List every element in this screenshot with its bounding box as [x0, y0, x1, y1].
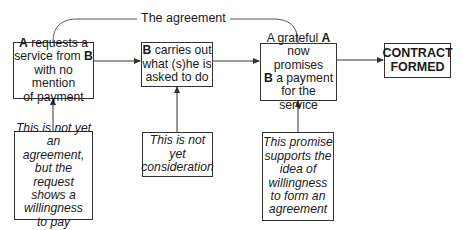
step-request-box: A requests a service from B with no ment… — [13, 42, 94, 99]
contract-formed-text: CONTRACT FORMED — [382, 47, 452, 74]
note-perform-box: This is not yet consideration — [142, 132, 213, 177]
step-perform-box: B carries out what (s)he is asked to do — [141, 42, 213, 87]
contract-formed-box: CONTRACT FORMED — [384, 43, 451, 78]
note-promise-box: This promise supports the idea of willin… — [262, 132, 334, 221]
agreement-label: The agreement — [137, 11, 230, 25]
step-perform-text: B carries out what (s)he is asked to do — [142, 44, 211, 84]
step-promise-text: A grateful A now promises B a payment fo… — [261, 32, 336, 112]
step-promise-box: A grateful A now promises B a payment fo… — [260, 43, 337, 101]
note-request-box: This is not yet an agreement, but the re… — [14, 131, 93, 220]
step-request-text: A requests a service from B with no ment… — [14, 37, 93, 104]
note-promise-text: This promise supports the idea of willin… — [263, 136, 333, 216]
note-perform-text: This is not yet consideration — [141, 134, 214, 174]
note-request-text: This is not yet an agreement, but the re… — [15, 122, 92, 229]
